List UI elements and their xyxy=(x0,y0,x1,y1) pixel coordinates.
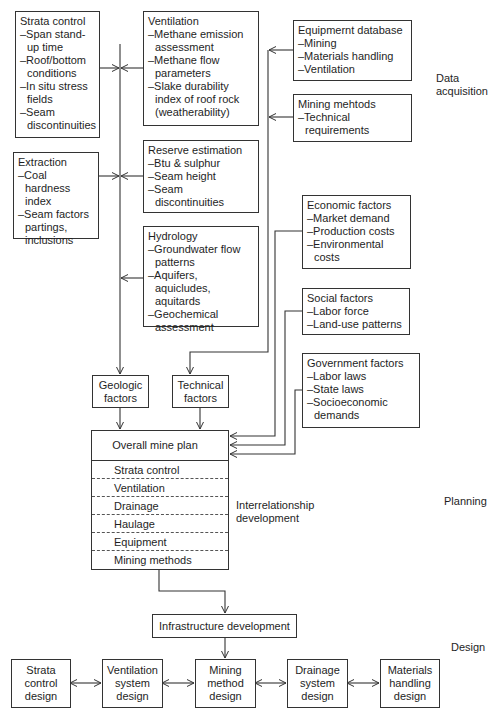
box-item: –Methane flow parameters xyxy=(148,54,254,80)
box-title: Strata control design xyxy=(14,664,68,703)
box-item: –Environmental costs xyxy=(307,238,406,264)
plan-row: Strata control xyxy=(92,461,228,479)
technical-factors-box: Technical factors xyxy=(172,375,229,408)
box-item: –Span stand-up time xyxy=(20,28,95,54)
box-item: –Seam factors partings, inclusions xyxy=(18,208,94,247)
box-item: –Coal hardness index xyxy=(18,169,94,208)
box-title: Infrastructure development xyxy=(155,620,294,633)
ventilation-input-box: Ventilation –Methane emission assessment… xyxy=(143,11,259,126)
geologic-factors-box: Geologic factors xyxy=(92,375,149,408)
extraction-input-box: Extraction –Coal hardness index –Seam fa… xyxy=(13,152,99,239)
box-title: Drainage system design xyxy=(290,664,345,703)
drainage-system-design-box: Drainage system design xyxy=(287,659,348,708)
box-item: –Materials handling xyxy=(298,50,407,63)
box-item: –Groundwater flow patterns xyxy=(148,243,254,269)
mining-method-design-box: Mining method design xyxy=(195,659,256,708)
economic-factors-box: Economic factors –Market demand –Product… xyxy=(302,195,411,269)
hydrology-input-box: Hydrology –Groundwater flow patterns –Aq… xyxy=(143,226,259,327)
social-factors-box: Social factors –Labor force –Land-use pa… xyxy=(302,288,410,335)
interrelationship-label: Interrelationship development xyxy=(236,499,326,525)
box-title: Reserve estimation xyxy=(148,144,254,157)
strata-control-design-box: Strata control design xyxy=(11,659,71,708)
box-item: –Aquifers, aquicludes, aquitards xyxy=(148,269,254,308)
box-item: –Land-use patterns xyxy=(307,318,405,331)
reserve-estimation-input-box: Reserve estimation –Btu & sulphur –Seam … xyxy=(143,140,259,213)
box-title: Social factors xyxy=(307,292,405,305)
box-title: Ventilation system design xyxy=(105,664,160,703)
stage-label-data-acquisition: Data acquisition xyxy=(436,72,488,98)
ventilation-system-design-box: Ventilation system design xyxy=(102,659,163,708)
box-item: –Seam discontinuities xyxy=(148,183,254,209)
box-item: –Btu & sulphur xyxy=(148,157,254,170)
box-item: –Labor force xyxy=(307,305,405,318)
box-title: Extraction xyxy=(18,156,94,169)
box-item: –Market demand xyxy=(307,212,406,225)
strata-control-input-box: Strata control –Span stand-up time –Roof… xyxy=(15,11,100,138)
box-item: –In situ stress fields xyxy=(20,80,95,106)
plan-row: Mining methods xyxy=(92,551,228,569)
box-item: –Geochemical assessment xyxy=(148,308,254,334)
box-title: Geologic factors xyxy=(95,379,146,405)
box-item: –Slake durability index of roof rock (we… xyxy=(148,80,254,119)
overall-mine-plan-box: Overall mine plan Strata control Ventila… xyxy=(91,430,229,570)
infrastructure-development-box: Infrastructure development xyxy=(152,614,297,638)
box-item: –Seam discontinuities xyxy=(20,106,95,132)
box-item: –Methane emission assessment xyxy=(148,28,254,54)
stage-label-design: Design xyxy=(451,641,485,654)
box-item: –Roof/bottom conditions xyxy=(20,54,95,80)
plan-row: Equipment xyxy=(92,533,228,551)
plan-row: Haulage xyxy=(92,515,228,533)
box-item: –State laws xyxy=(307,383,415,396)
stage-label-planning: Planning xyxy=(444,495,487,508)
box-item: –Labor laws xyxy=(307,370,415,383)
box-title: Mining method design xyxy=(198,664,253,703)
box-title: Strata control xyxy=(20,15,95,28)
box-item: –Production costs xyxy=(307,225,406,238)
equipment-database-input-box: Equipmernt database –Mining –Materials h… xyxy=(293,20,412,81)
government-factors-box: Government factors –Labor laws –State la… xyxy=(302,353,420,428)
box-item: –Socioeconomic demands xyxy=(307,396,415,422)
box-title: Mining mehtods xyxy=(298,98,407,111)
box-title: Economic factors xyxy=(307,199,406,212)
box-title: Equipmernt database xyxy=(298,24,407,37)
box-item: –Mining xyxy=(298,37,407,50)
box-item: –Ventilation xyxy=(298,63,407,76)
box-title: Materials handling design xyxy=(383,664,437,703)
plan-title: Overall mine plan xyxy=(92,431,228,461)
mining-methods-input-box: Mining mehtods –Technical requirements xyxy=(293,94,412,142)
box-title: Government factors xyxy=(307,357,415,370)
box-title: Technical factors xyxy=(175,379,226,405)
plan-row: Drainage xyxy=(92,497,228,515)
box-item: –Seam height xyxy=(148,170,254,183)
box-title: Ventilation xyxy=(148,15,254,28)
box-title: Hydrology xyxy=(148,230,254,243)
plan-row: Ventilation xyxy=(92,479,228,497)
box-item: –Technical requirements xyxy=(298,111,407,137)
materials-handling-design-box: Materials handling design xyxy=(380,659,440,708)
